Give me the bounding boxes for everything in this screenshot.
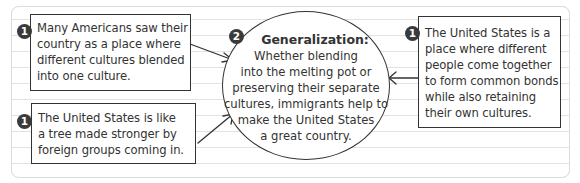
box-line: while also retaining bbox=[425, 89, 558, 105]
circle-line: a great country. bbox=[223, 128, 389, 144]
step-badge-1: 1 bbox=[17, 24, 32, 39]
generalization-heading: Generalization: bbox=[223, 32, 389, 48]
circle-line: into the melting pot or bbox=[223, 64, 389, 80]
cause-box-melting-pot: Many Americans saw their country as a pl… bbox=[30, 14, 191, 91]
circle-line: preserving their separate bbox=[223, 80, 389, 96]
step-badge-1: 1 bbox=[17, 114, 32, 129]
circle-line: cultures, immigrants help to bbox=[223, 96, 389, 112]
generalization-text: Whether blending into the melting pot or… bbox=[223, 48, 389, 144]
box-line: The United States is a bbox=[425, 25, 558, 41]
box-line: foreign groups coming in. bbox=[38, 142, 184, 158]
cause-box-common-bonds: The United States is a place where diffe… bbox=[418, 16, 561, 128]
generalization-circle: Generalization: Whether blending into th… bbox=[222, 11, 390, 160]
box-line: country as a place where bbox=[37, 36, 188, 52]
circle-line: make the United States bbox=[223, 112, 389, 128]
box-line: The United States is like bbox=[38, 110, 184, 126]
box-line: different cultures blended bbox=[37, 52, 188, 68]
box-line: their own cultures. bbox=[425, 105, 558, 121]
box-line: people come together bbox=[425, 57, 558, 73]
circle-line: Whether blending bbox=[223, 48, 389, 64]
box-line: into one culture. bbox=[37, 68, 188, 84]
box-line: place where different bbox=[425, 41, 558, 57]
cause-box-tree: The United States is like a tree made st… bbox=[31, 103, 196, 164]
step-badge-2: 2 bbox=[229, 29, 244, 44]
box-line: Many Americans saw their bbox=[37, 20, 188, 36]
box-line: a tree made stronger by bbox=[38, 126, 184, 142]
box-line: to form common bonds bbox=[425, 73, 558, 89]
step-badge-1: 1 bbox=[405, 26, 420, 41]
